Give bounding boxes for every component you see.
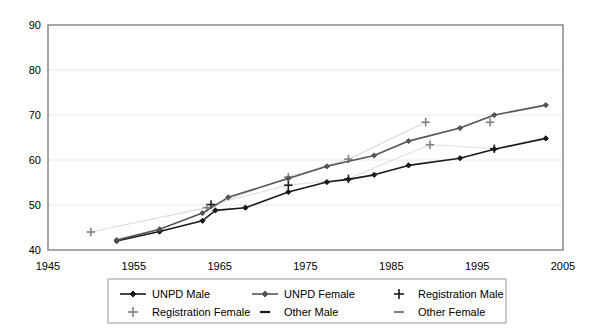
y-axis-tick-label: 50: [29, 199, 41, 211]
diamond-marker: [543, 103, 548, 108]
diamond-marker: [243, 205, 248, 210]
y-axis-tick-label: 90: [29, 19, 41, 31]
line-chart: 4050607080901945195519651975198519952005…: [0, 0, 608, 332]
diamond-marker: [406, 163, 411, 168]
diamond-marker: [492, 147, 497, 152]
faint-trend-line: [211, 145, 494, 205]
legend-item-label: Registration Male: [418, 288, 504, 300]
x-axis-tick-label: 1985: [379, 260, 403, 272]
faint-trend-line: [91, 122, 426, 232]
x-axis-tick-label: 1965: [207, 260, 231, 272]
x-axis-tick-label: 1955: [122, 260, 146, 272]
diamond-marker: [406, 139, 411, 144]
y-axis-tick-label: 60: [29, 154, 41, 166]
diamond-marker: [372, 172, 377, 177]
data-line: [117, 105, 546, 240]
x-axis-tick-label: 1975: [293, 260, 317, 272]
diamond-marker: [324, 179, 329, 184]
data-line: [117, 138, 546, 241]
legend-item-label: UNPD Female: [284, 288, 355, 300]
diamond-marker: [543, 136, 548, 141]
x-axis-tick-label: 2005: [551, 260, 575, 272]
x-axis-tick-label: 1945: [36, 260, 60, 272]
chart-container: 4050607080901945195519651975198519952005…: [0, 0, 608, 332]
y-axis-tick-label: 70: [29, 109, 41, 121]
legend-item-label: Registration Female: [152, 306, 250, 318]
diamond-marker: [492, 112, 497, 117]
diamond-marker: [457, 125, 462, 130]
plot-area-border: [48, 25, 563, 250]
legend-item-label: UNPD Male: [152, 288, 210, 300]
x-axis-tick-label: 1995: [465, 260, 489, 272]
legend-item-label: Other Male: [284, 306, 338, 318]
y-axis-tick-label: 80: [29, 64, 41, 76]
y-axis-tick-label: 40: [29, 244, 41, 256]
diamond-marker: [286, 189, 291, 194]
diamond-marker: [372, 153, 377, 158]
legend-item-label: Other Female: [418, 306, 485, 318]
